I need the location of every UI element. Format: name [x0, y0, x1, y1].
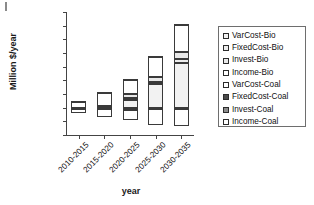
y-axis-tick-mark	[63, 108, 66, 109]
bar-group[interactable]	[174, 0, 189, 205]
x-axis-tick-mark	[156, 136, 157, 139]
bar-segment[interactable]	[174, 24, 189, 26]
y-axis-tick-mark	[63, 26, 66, 27]
chart-legend: VarCost-BioFixedCost-BioInvest-BioIncome…	[218, 26, 306, 127]
y-axis-tick-mark	[63, 121, 66, 122]
legend-swatch-icon	[223, 33, 229, 39]
legend-swatch-icon	[223, 94, 229, 100]
legend-item[interactable]: FixedCost-Bio	[223, 42, 305, 54]
legend-item-label: FixedCost-Coal	[232, 93, 288, 101]
legend-item[interactable]: Invest-Coal	[223, 104, 305, 116]
bar-segment[interactable]	[174, 25, 189, 52]
legend-item-label: Invest-Coal	[232, 106, 273, 114]
bar-segment[interactable]	[97, 109, 112, 117]
legend-item-label: Income-Coal	[232, 118, 278, 126]
bar-segment[interactable]	[123, 100, 138, 108]
legend-item[interactable]: VarCost-Bio	[223, 30, 305, 42]
legend-item-label: FixedCost-Bio	[232, 44, 283, 52]
legend-swatch-icon	[223, 45, 229, 51]
bar-segment[interactable]	[97, 92, 112, 94]
bar-segment[interactable]	[97, 93, 112, 106]
y-axis-tick-mark	[63, 39, 66, 40]
legend-swatch-icon	[223, 58, 229, 64]
legend-item-label: Invest-Bio	[232, 56, 268, 64]
bar-segment[interactable]	[123, 94, 138, 98]
bar-segment[interactable]	[148, 82, 163, 84]
legend-item-label: VarCost-Bio	[232, 32, 276, 40]
bar-segment[interactable]	[123, 79, 138, 81]
legend-item[interactable]: Income-Bio	[223, 67, 305, 79]
bar-segment[interactable]	[148, 56, 163, 77]
legend-swatch-icon	[223, 82, 229, 88]
bar-segment[interactable]	[174, 109, 189, 125]
x-axis-tick-mark	[181, 136, 182, 139]
bar-segment[interactable]	[148, 77, 163, 82]
legend-item[interactable]: FixedCost-Coal	[223, 91, 305, 103]
x-axis-title: year	[96, 186, 166, 196]
legend-item[interactable]: Invest-Bio	[223, 55, 305, 67]
bar-segment[interactable]	[148, 56, 163, 58]
bar-segment[interactable]	[174, 59, 189, 62]
y-axis-line	[66, 12, 67, 136]
y-axis-tick-mark	[63, 80, 66, 81]
chart-plot-area: Million $/year 7000060000500004000030000…	[0, 0, 314, 205]
bar-segment[interactable]	[148, 109, 163, 125]
legend-item-label: VarCost-Coal	[232, 81, 281, 89]
legend-swatch-icon	[223, 107, 229, 113]
y-axis-tick-mark	[63, 135, 66, 136]
legend-swatch-icon	[223, 70, 229, 76]
x-axis-tick-mark	[104, 136, 105, 139]
bar-segment[interactable]	[123, 110, 138, 120]
bar-segment[interactable]	[174, 63, 189, 108]
y-axis-tick-mark	[63, 53, 66, 54]
bar-segment[interactable]	[71, 109, 86, 113]
x-axis-tick-mark	[130, 136, 131, 139]
legend-item-label: Income-Bio	[232, 69, 273, 77]
bar-segment[interactable]	[123, 80, 138, 94]
bar-segment[interactable]	[148, 84, 163, 107]
bar-segment[interactable]	[71, 101, 86, 103]
y-axis-tick-mark	[63, 94, 66, 95]
bar-segment[interactable]	[174, 52, 189, 59]
x-axis-tick-mark	[79, 136, 80, 139]
bar-segment[interactable]	[123, 98, 138, 100]
legend-swatch-icon	[223, 119, 229, 125]
legend-item[interactable]: Income-Coal	[223, 116, 305, 128]
y-axis-tick-mark	[63, 12, 66, 13]
legend-item[interactable]: VarCost-Coal	[223, 79, 305, 91]
y-axis-tick-mark	[63, 67, 66, 68]
